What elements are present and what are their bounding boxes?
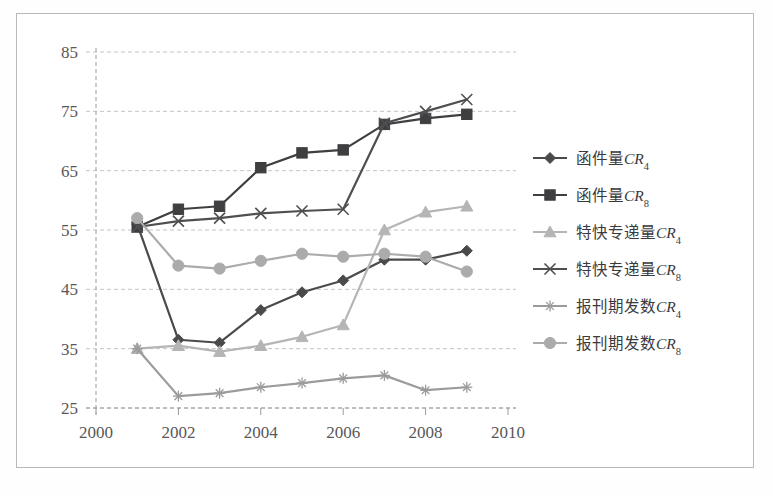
legend-item-3[interactable]: 特快专递量CR8 [533, 261, 681, 283]
data-point-square [338, 145, 348, 155]
y-tick-label: 35 [61, 340, 78, 359]
grid-lines [86, 52, 516, 408]
legend-item-1[interactable]: 函件量CR8 [533, 187, 649, 209]
y-tick-label: 25 [61, 399, 78, 418]
data-point-circle [214, 263, 225, 274]
data-point-circle [379, 248, 390, 259]
data-point-square [545, 190, 555, 200]
x-tick-label: 2006 [326, 423, 360, 442]
data-point-star [338, 373, 349, 384]
data-point-circle [132, 213, 143, 224]
data-point-square [297, 148, 307, 158]
y-tick-label: 45 [61, 280, 78, 299]
data-point-square [173, 204, 183, 214]
legend-item-label: 函件量CR4 [576, 150, 650, 172]
x-tick-label: 2010 [491, 423, 525, 442]
series-line [137, 224, 467, 343]
series-line [137, 349, 467, 396]
line-chart: 25354555657585 200020022004200620082010 … [0, 0, 773, 496]
x-tick-label: 2008 [409, 423, 443, 442]
data-point-circle [420, 251, 431, 262]
data-point-square [462, 109, 472, 119]
legend-item-0[interactable]: 函件量CR4 [533, 150, 650, 172]
x-tick-label: 2004 [244, 423, 279, 442]
data-point-diamond [545, 153, 556, 164]
legend-item-label: 特快专递量CR4 [576, 224, 682, 246]
data-point-star [545, 301, 556, 312]
y-tick-label: 65 [61, 162, 78, 181]
legend-item-5[interactable]: 报刊期发数CR8 [533, 335, 681, 357]
series-2 [131, 200, 473, 356]
data-point-circle [255, 255, 266, 266]
data-point-triangle [378, 224, 390, 235]
data-series-layer [131, 94, 473, 402]
data-point-circle [296, 248, 307, 259]
x-axis-tick-labels: 200020022004200620082010 [79, 423, 525, 442]
y-tick-label: 75 [61, 102, 78, 121]
legend-item-2[interactable]: 特快专递量CR4 [533, 224, 682, 246]
legend-item-label: 函件量CR8 [576, 187, 649, 209]
data-point-diamond [297, 287, 308, 298]
data-point-square [256, 163, 266, 173]
legend-item-label: 特快专递量CR8 [576, 261, 681, 283]
data-point-triangle [461, 200, 473, 211]
data-point-square [214, 201, 224, 211]
y-tick-label: 85 [61, 43, 78, 62]
x-tick-label: 2002 [161, 423, 195, 442]
chart-legend: 函件量CR4函件量CR8特快专递量CR4特快专递量CR8报刊期发数CR4报刊期发… [533, 150, 682, 357]
data-point-circle [173, 260, 184, 271]
series-line [137, 218, 467, 271]
legend-item-label: 报刊期发数CR4 [576, 298, 682, 320]
series-0 [132, 219, 473, 349]
data-point-star [214, 388, 225, 399]
series-5 [132, 213, 473, 278]
data-point-diamond [461, 245, 472, 256]
data-point-star [420, 385, 431, 396]
data-point-circle [338, 251, 349, 262]
data-point-star [461, 382, 472, 393]
data-point-circle [461, 266, 472, 277]
data-point-star [255, 382, 266, 393]
x-tick-label: 2000 [79, 423, 113, 442]
data-point-diamond [338, 275, 349, 286]
legend-item-4[interactable]: 报刊期发数CR4 [533, 298, 682, 320]
data-point-star [379, 370, 390, 381]
legend-item-label: 报刊期发数CR8 [576, 335, 681, 357]
y-tick-label: 55 [61, 221, 78, 240]
data-point-star [297, 378, 308, 389]
y-axis-tick-labels: 25354555657585 [61, 43, 78, 418]
data-point-circle [544, 337, 555, 348]
data-point-triangle [337, 319, 349, 330]
x-axis-ticks [96, 408, 508, 415]
chart-figure: 25354555657585 200020022004200620082010 … [0, 0, 773, 496]
series-4 [132, 343, 473, 401]
